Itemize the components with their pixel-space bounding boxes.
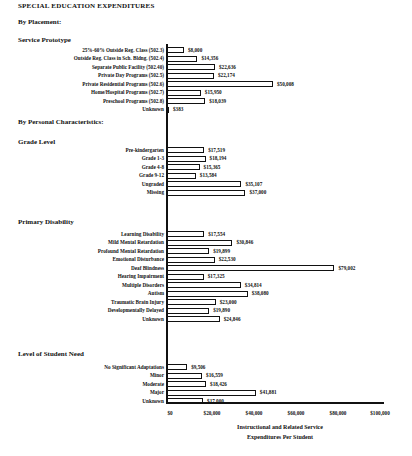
category-label: Major [4,389,164,395]
bar [167,390,256,396]
bar [167,248,209,254]
bar [167,173,196,179]
bar [167,308,209,314]
bar [167,257,215,263]
bar [167,240,232,246]
category-label: Separate Public Facility (502.40) [4,64,164,70]
bar [167,373,202,379]
category-label: Multiple Disorders [4,282,164,288]
category-label: Outside Reg. Class in Sch. Bldng. (502.4… [4,55,164,61]
bar [167,47,184,53]
bar [167,164,200,170]
bar [167,147,204,153]
x-axis-label-line2: Expenditures Per Student [210,434,350,440]
category-label: Hearing Impairment [4,273,164,279]
value-label: $15,950 [205,89,222,95]
value-label: $34,814 [245,282,262,288]
category-label: Preschool Programs (502.8) [4,98,164,104]
value-label: $13,584 [200,172,217,178]
category-label: Private Day Programs (502.5) [4,72,164,78]
x-axis-line [166,402,384,404]
section-by-personal: By Personal Characteristics: [18,118,104,126]
bar [167,181,241,187]
value-label: $22,636 [219,64,236,70]
category-label: 25%-60% Outside Reg. Class (502.3) [4,47,164,53]
group-service-prototype: Service Prototype [18,36,71,44]
bar [167,90,201,96]
x-tick: $0 [167,410,172,416]
value-label: $19,899 [213,248,230,254]
bar [167,282,241,288]
section-by-placement: By Placement: [18,18,61,26]
value-label: $16,559 [206,372,223,378]
category-label: Missing [4,189,164,195]
bar [167,316,220,322]
category-label: Pre-kindergarten [4,147,164,153]
bar [167,291,248,297]
category-label: Unknown [4,106,164,112]
value-label: $24,846 [224,316,241,322]
bar [167,73,214,79]
category-label: Grade 4-8 [4,164,164,170]
value-label: $17,325 [208,273,225,279]
bar [167,56,197,62]
category-label: Grade 9-12 [4,172,164,178]
group-primary-disability: Primary Disability [18,218,74,226]
bar [167,274,204,280]
bar [167,299,216,305]
category-label: Unknown [4,398,164,404]
x-tick: $80,000 [330,410,347,416]
category-label: Ungraded [4,181,164,187]
value-label: $17,519 [208,147,225,153]
bar [167,231,204,237]
chart-title: SPECIAL EDUCATION EXPENDITURES [18,2,155,10]
value-label: $22,174 [218,72,235,78]
value-label: $41,881 [260,389,277,395]
value-label: $9,506 [191,364,205,370]
value-label: $383 [173,106,183,112]
value-label: $14,356 [201,55,218,61]
value-label: $23,000 [220,299,237,305]
value-label: $30,846 [236,239,253,245]
category-label: Minor [4,372,164,378]
x-axis-label-line1: Instructional and Related Service [210,424,350,430]
category-label: No Significant Adaptations [4,364,164,370]
y-axis-line [166,44,168,403]
bar [167,364,187,370]
category-label: Autism [4,290,164,296]
bar [167,190,245,196]
category-label: Mild Mental Retardation [4,239,164,245]
bar [167,381,206,387]
value-label: $38,080 [252,290,269,296]
category-label: Deaf Blindness [4,265,164,271]
value-label: $22,530 [219,256,236,262]
value-label: $35,107 [245,181,262,187]
value-label: $19,890 [213,307,230,313]
value-label: $18,426 [210,381,227,387]
x-tick: $40,000 [246,410,263,416]
category-label: Traumatic Brain Injury [4,299,164,305]
x-tick: $60,000 [288,410,305,416]
value-label: $79,002 [338,265,355,271]
category-label: Private Residential Programs (502.6) [4,81,164,87]
value-label: $18,039 [209,98,226,104]
category-label: Moderate [4,381,164,387]
value-label: $15,365 [204,164,221,170]
category-label: Learning Disability [4,231,164,237]
category-label: Home/Hospital Programs (502.7) [4,89,164,95]
bar [167,98,205,104]
category-label: Unknown [4,316,164,322]
x-tick: $100,000 [370,410,389,416]
value-label: $18,194 [210,155,227,161]
category-label: Emotional Disturbance [4,256,164,262]
category-label: Grade 1-3 [4,155,164,161]
bar [167,156,206,162]
group-grade-level: Grade Level [18,138,55,146]
group-level-of-need: Level of Student Need [18,350,84,358]
bar [167,81,273,87]
value-label: $37,000 [249,189,266,195]
bar [167,64,215,70]
category-label: Developmentally Delayed [4,307,164,313]
x-tick: $20,000 [204,410,221,416]
bar [167,265,334,271]
